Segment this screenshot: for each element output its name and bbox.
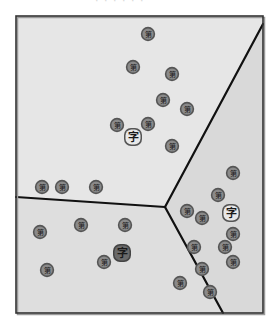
data-point-icon: 第 (55, 180, 69, 194)
data-point-icon: 第 (40, 263, 54, 277)
data-point-icon: 第 (218, 240, 232, 254)
svg-text:第: 第 (114, 121, 121, 130)
svg-text:字: 字 (226, 206, 237, 220)
data-point-icon: 第 (226, 255, 240, 269)
svg-text:第: 第 (122, 221, 129, 230)
data-point-icon: 第 (126, 60, 140, 74)
data-point-icon: 第 (195, 262, 209, 276)
svg-text:第: 第 (44, 266, 51, 275)
svg-text:第: 第 (59, 183, 66, 192)
svg-text:第: 第 (230, 230, 237, 239)
svg-text:第: 第 (101, 258, 108, 267)
svg-text:第: 第 (78, 221, 85, 230)
voronoi-cluster-diagram: 第第第第第第第第第第第字第第第第第第第第第第第字第第第第第字 (0, 0, 277, 328)
data-point-icon: 第 (110, 118, 124, 132)
data-point-icon: 第 (165, 67, 179, 81)
svg-text:第: 第 (169, 70, 176, 79)
svg-text:第: 第 (93, 183, 100, 192)
svg-text:第: 第 (230, 169, 237, 178)
svg-text:第: 第 (215, 191, 222, 200)
svg-text:第: 第 (37, 228, 44, 237)
svg-text:第: 第 (199, 214, 206, 223)
data-point-icon: 第 (226, 166, 240, 180)
svg-text:第: 第 (145, 120, 152, 129)
data-point-icon: 第 (187, 240, 201, 254)
svg-text:第: 第 (222, 243, 229, 252)
data-point-icon: 第 (195, 211, 209, 225)
data-point-icon: 第 (165, 139, 179, 153)
data-point-icon: 第 (35, 180, 49, 194)
svg-text:第: 第 (184, 105, 191, 114)
svg-text:字: 字 (128, 130, 139, 144)
data-point-icon: 第 (33, 225, 47, 239)
data-point-icon: 第 (141, 117, 155, 131)
data-point-icon: 第 (141, 27, 155, 41)
svg-text:第: 第 (184, 207, 191, 216)
data-point-icon: 第 (97, 255, 111, 269)
data-point-icon: 第 (74, 218, 88, 232)
data-point-icon: 第 (226, 227, 240, 241)
centroid-icon: 字 (113, 244, 131, 262)
svg-text:第: 第 (191, 243, 198, 252)
svg-text:第: 第 (177, 279, 184, 288)
svg-text:第: 第 (160, 96, 167, 105)
svg-text:第: 第 (230, 258, 237, 267)
svg-text:字: 字 (117, 246, 128, 260)
svg-text:第: 第 (199, 265, 206, 274)
svg-text:第: 第 (145, 30, 152, 39)
data-point-icon: 第 (180, 102, 194, 116)
centroid-icon: 字 (222, 204, 240, 222)
data-point-icon: 第 (89, 180, 103, 194)
svg-text:第: 第 (39, 183, 46, 192)
data-point-icon: 第 (180, 204, 194, 218)
centroid-icon: 字 (124, 128, 142, 146)
svg-text:第: 第 (207, 288, 214, 297)
svg-text:第: 第 (130, 63, 137, 72)
data-point-icon: 第 (173, 276, 187, 290)
data-point-icon: 第 (211, 188, 225, 202)
data-point-icon: 第 (118, 218, 132, 232)
svg-text:第: 第 (169, 142, 176, 151)
data-point-icon: 第 (203, 285, 217, 299)
data-point-icon: 第 (156, 93, 170, 107)
